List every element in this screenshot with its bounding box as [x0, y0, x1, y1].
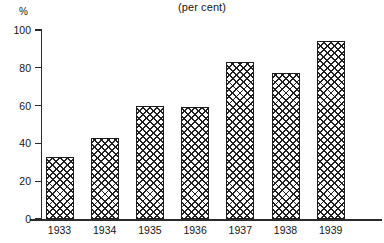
bar-1939 — [317, 41, 345, 219]
bar-1936 — [181, 107, 209, 219]
x-tick-label-1934: 1934 — [83, 224, 127, 236]
x-tick-label-1939: 1939 — [309, 224, 353, 236]
y-tick-label: 40 — [0, 137, 31, 149]
x-tick-label-1937: 1937 — [218, 224, 262, 236]
x-axis-line — [30, 219, 382, 221]
y-tick-label: 20 — [0, 175, 31, 187]
x-tick-label-1936: 1936 — [173, 224, 217, 236]
bar-chart: (per cent) % 020406080100 19331934193519… — [0, 0, 384, 243]
bar-1937 — [226, 62, 254, 219]
plot-area: 020406080100 193319341935193619371938193… — [0, 0, 384, 243]
y-tick-mark — [35, 218, 42, 219]
bar-1935 — [136, 106, 164, 219]
y-tick-label: 0 — [0, 213, 31, 225]
y-tick-label: 60 — [0, 100, 31, 112]
x-tick-label-1933: 1933 — [38, 224, 82, 236]
x-tick-label-1935: 1935 — [128, 224, 172, 236]
x-tick-label-1938: 1938 — [264, 224, 308, 236]
y-tick-mark — [35, 181, 42, 182]
y-tick-label: 100 — [0, 24, 31, 36]
y-axis-line — [41, 30, 42, 220]
y-tick-label: 80 — [0, 62, 31, 74]
y-tick-mark — [35, 105, 42, 106]
bar-1934 — [91, 138, 119, 219]
y-tick-mark — [35, 143, 42, 144]
bar-1933 — [46, 157, 74, 219]
y-tick-mark — [35, 67, 42, 68]
y-tick-mark — [35, 29, 42, 30]
bar-1938 — [272, 73, 300, 219]
